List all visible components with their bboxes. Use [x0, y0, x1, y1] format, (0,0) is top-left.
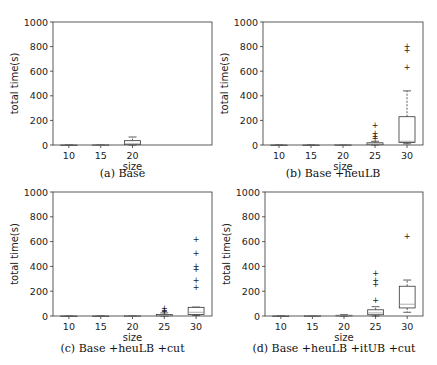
- outlier-marker: +: [161, 304, 168, 313]
- outlier-marker: +: [372, 269, 379, 278]
- panel-caption: (c) Base +heuLB +cut: [60, 342, 185, 355]
- box-15: [93, 316, 109, 317]
- y-tick-label: 600: [240, 66, 258, 77]
- x-tick-label: 30: [190, 321, 202, 332]
- x-tick-label: 10: [273, 150, 285, 161]
- box-25: ++++: [368, 269, 384, 316]
- box-15: [305, 316, 321, 317]
- y-tick-label: 800: [240, 41, 258, 52]
- x-tick-label: 20: [126, 150, 138, 161]
- y-axis-label: total time(s): [9, 53, 20, 115]
- box-20: [125, 316, 141, 317]
- x-tick-label: 20: [126, 321, 138, 332]
- x-tick-label: 30: [401, 321, 413, 332]
- box-10: [271, 145, 287, 146]
- y-tick-label: 200: [240, 115, 258, 126]
- panel-caption: (b) Base +heuLB: [286, 167, 381, 180]
- box-10: [273, 316, 289, 317]
- y-tick-label: 1000: [24, 17, 48, 28]
- plot-frame: [53, 192, 212, 316]
- outlier-marker: +: [372, 296, 379, 305]
- plot-frame: [53, 22, 212, 145]
- outlier-marker: +: [193, 276, 200, 285]
- x-tick-label: 25: [369, 150, 381, 161]
- box-20: [336, 315, 352, 316]
- panel-d: 02004006008001000total time(s)1015202530…: [221, 187, 423, 356]
- y-tick-label: 400: [240, 90, 258, 101]
- x-tick-label: 15: [306, 321, 318, 332]
- box-10: [61, 316, 77, 317]
- box-10: [61, 145, 77, 146]
- box-25: ++++: [367, 121, 383, 145]
- x-tick-label: 10: [63, 150, 75, 161]
- x-tick-label: 20: [337, 150, 349, 161]
- box-15: [303, 145, 319, 146]
- y-tick-label: 200: [242, 286, 260, 297]
- outlier-marker: +: [372, 121, 379, 130]
- box-30: ++++++: [188, 235, 204, 315]
- y-tick-label: 1000: [24, 187, 48, 198]
- outlier-marker: +: [193, 235, 200, 244]
- x-tick-label: 15: [95, 150, 107, 161]
- y-tick-label: 400: [242, 261, 260, 272]
- box-20: [335, 145, 351, 146]
- x-tick-label: 15: [95, 321, 107, 332]
- panel-caption: (d) Base +heuLB +itUB +cut: [252, 342, 416, 355]
- x-tick-label: 30: [401, 150, 413, 161]
- y-tick-label: 200: [30, 115, 48, 126]
- y-axis-label: total time(s): [219, 53, 230, 115]
- box-30: +: [399, 232, 415, 312]
- figure: 02004006008001000total time(s)101520size…: [0, 0, 437, 365]
- outlier-marker: +: [404, 232, 411, 241]
- y-tick-label: 600: [30, 66, 48, 77]
- y-tick-label: 400: [30, 90, 48, 101]
- outlier-marker: +: [404, 42, 411, 51]
- panel-a: 02004006008001000total time(s)101520size…: [9, 17, 212, 181]
- panel-caption: (a) Base: [100, 167, 145, 180]
- outlier-marker: +: [372, 129, 379, 138]
- y-tick-label: 0: [252, 140, 258, 151]
- outlier-marker: +: [404, 63, 411, 72]
- y-tick-label: 800: [30, 41, 48, 52]
- y-tick-label: 0: [42, 140, 48, 151]
- outlier-marker: +: [193, 249, 200, 258]
- y-tick-label: 400: [30, 261, 48, 272]
- x-tick-label: 10: [275, 321, 287, 332]
- y-tick-label: 200: [30, 286, 48, 297]
- panel-b: 02004006008001000total time(s)1015202530…: [219, 17, 423, 181]
- y-tick-label: 600: [242, 236, 260, 247]
- box-15: [93, 145, 109, 146]
- y-tick-label: 1000: [236, 187, 260, 198]
- x-tick-label: 15: [305, 150, 317, 161]
- x-tick-label: 20: [338, 321, 350, 332]
- x-tick-label: 25: [158, 321, 170, 332]
- x-tick-label: 25: [370, 321, 382, 332]
- box-30: +++: [399, 42, 415, 144]
- outlier-marker: +: [193, 262, 200, 271]
- y-tick-label: 800: [30, 211, 48, 222]
- box-20: [125, 137, 141, 145]
- y-axis-label: total time(s): [9, 223, 20, 285]
- y-tick-label: 800: [242, 211, 260, 222]
- y-tick-label: 0: [254, 311, 260, 322]
- y-tick-label: 1000: [234, 17, 258, 28]
- box-25: +++: [156, 304, 172, 316]
- y-axis-label: total time(s): [221, 223, 232, 285]
- y-tick-label: 0: [42, 311, 48, 322]
- y-tick-label: 600: [30, 236, 48, 247]
- x-tick-label: 10: [63, 321, 75, 332]
- panel-c: 02004006008001000total time(s)1015202530…: [9, 187, 212, 356]
